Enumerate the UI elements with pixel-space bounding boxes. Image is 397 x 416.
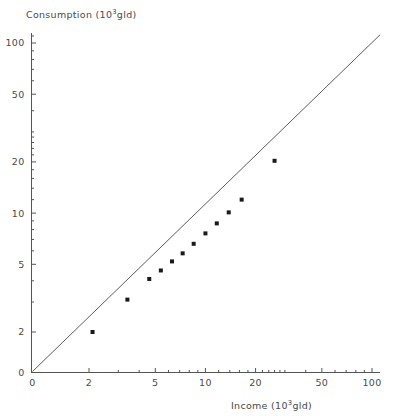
data-point [273,159,277,163]
origin-labels: 00 [18,367,36,388]
x-tick-label: 100 [362,377,381,388]
data-points [91,159,277,334]
x-axis-title: Income (103gld) [231,399,312,411]
data-point [215,221,219,225]
y-tick-label: 50 [12,89,25,100]
x-origin-label: 0 [29,377,35,388]
y-axis-ticks [32,36,37,332]
y-axis-title: Consumption (103gld) [26,8,136,20]
x-tick-label: 20 [249,377,262,388]
x-tick-label: 10 [199,377,212,388]
y-axis-title-tail: gld) [117,9,137,20]
x-tick-label: 5 [152,377,158,388]
x-axis-ticks [89,368,372,373]
x-tick-label: 2 [86,377,92,388]
data-point [159,268,163,272]
x-tick-label: 50 [316,377,329,388]
scatter-plot-canvas: 25102050100 25102050100 00 [0,0,397,416]
data-point [203,231,207,235]
y-tick-label: 2 [18,326,24,337]
y-origin-label: 0 [18,367,24,378]
x-axis-tick-labels: 25102050100 [86,377,382,388]
x-axis-title-main: Income (10 [231,400,288,411]
reference-line [33,35,381,372]
data-point [192,242,196,246]
data-point [147,277,151,281]
y-tick-label: 100 [5,37,24,48]
identity-reference-line [33,35,381,372]
data-point [227,210,231,214]
figure-container: Consumption (103gld) Income (103gld) 251… [0,0,397,416]
data-point [91,330,95,334]
data-point [240,198,244,202]
data-point [181,251,185,255]
y-tick-label: 20 [12,156,25,167]
y-axis-tick-labels: 25102050100 [5,37,24,337]
data-point [125,298,129,302]
y-tick-label: 10 [12,208,25,219]
y-tick-label: 5 [18,259,24,270]
y-axis-title-main: Consumption (10 [26,9,112,20]
data-point [170,259,174,263]
x-axis-title-tail: gld) [292,400,312,411]
